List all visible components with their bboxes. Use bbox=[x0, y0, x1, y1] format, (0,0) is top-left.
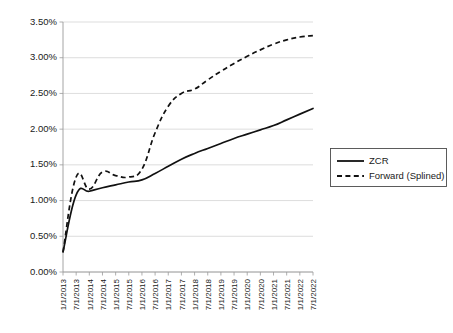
line-chart: 0.00%0.50%1.00%1.50%2.00%2.50%3.00%3.50%… bbox=[0, 0, 453, 333]
legend-label-zcr: ZCR bbox=[369, 155, 389, 166]
y-tick-label: 3.00% bbox=[30, 51, 57, 62]
y-tick-label: 1.00% bbox=[30, 194, 57, 205]
legend: ZCR Forward (Splined) bbox=[331, 149, 447, 187]
x-tick-label: 1/1/2021 bbox=[270, 278, 279, 310]
x-tick-label: 7/1/2019 bbox=[230, 278, 239, 310]
chart-svg: 0.00%0.50%1.00%1.50%2.00%2.50%3.00%3.50%… bbox=[0, 0, 453, 333]
y-tick-label: 0.50% bbox=[30, 230, 57, 241]
x-tick-label: 1/1/2017 bbox=[164, 278, 173, 310]
x-tick-label: 1/1/2016 bbox=[138, 278, 147, 310]
plot-series bbox=[63, 36, 313, 252]
x-tick-label: 7/1/2016 bbox=[151, 278, 160, 310]
x-tick-label: 1/1/2018 bbox=[191, 278, 200, 310]
x-tick-label: 7/1/2020 bbox=[257, 278, 266, 310]
x-tick-label: 1/1/2020 bbox=[243, 278, 252, 310]
x-tick-labels: 1/1/20137/1/20131/1/20147/1/20141/1/2015… bbox=[59, 278, 318, 310]
y-tick-labels: 0.00%0.50%1.00%1.50%2.00%2.50%3.00%3.50% bbox=[30, 16, 63, 277]
x-tick-label: 1/1/2022 bbox=[296, 278, 305, 310]
x-tick-label: 1/1/2014 bbox=[86, 278, 95, 310]
y-tick-label: 2.00% bbox=[30, 123, 57, 134]
y-tick-label: 0.00% bbox=[30, 266, 57, 277]
x-tick-label: 7/1/2015 bbox=[125, 278, 134, 310]
x-tick-label: 1/1/2013 bbox=[59, 278, 68, 310]
x-tick-label: 1/1/2015 bbox=[112, 278, 121, 310]
x-tick-label: 7/1/2021 bbox=[283, 278, 292, 310]
gridlines bbox=[63, 22, 313, 272]
y-tick-label: 1.50% bbox=[30, 158, 57, 169]
series-line-forward-splined bbox=[63, 36, 313, 252]
y-tick-label: 3.50% bbox=[30, 16, 57, 27]
x-tick-label: 7/1/2018 bbox=[204, 278, 213, 310]
y-tick-label: 2.50% bbox=[30, 87, 57, 98]
x-tick-label: 1/1/2019 bbox=[217, 278, 226, 310]
x-tick-label: 7/1/2013 bbox=[72, 278, 81, 310]
x-tick-label: 7/1/2022 bbox=[309, 278, 318, 310]
series-line-zcr bbox=[63, 108, 313, 252]
x-tick-label: 7/1/2014 bbox=[99, 278, 108, 310]
legend-label-forward-splined: Forward (Splined) bbox=[369, 170, 445, 181]
x-tick-label: 7/1/2017 bbox=[178, 278, 187, 310]
x-tick-marks bbox=[63, 272, 313, 276]
